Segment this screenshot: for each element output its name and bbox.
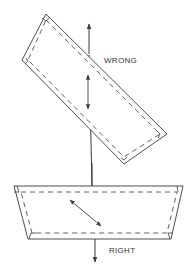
- diagram-canvas: WRONG RIGHT: [0, 0, 194, 278]
- right-piece: [14, 163, 183, 262]
- diagram-svg: [0, 0, 194, 278]
- right-piece-outline: [14, 186, 183, 239]
- wrong-label: WRONG: [104, 57, 137, 65]
- wrong-piece-outline: [22, 14, 167, 164]
- wrong-piece: [22, 14, 167, 164]
- right-label: RIGHT: [109, 247, 135, 255]
